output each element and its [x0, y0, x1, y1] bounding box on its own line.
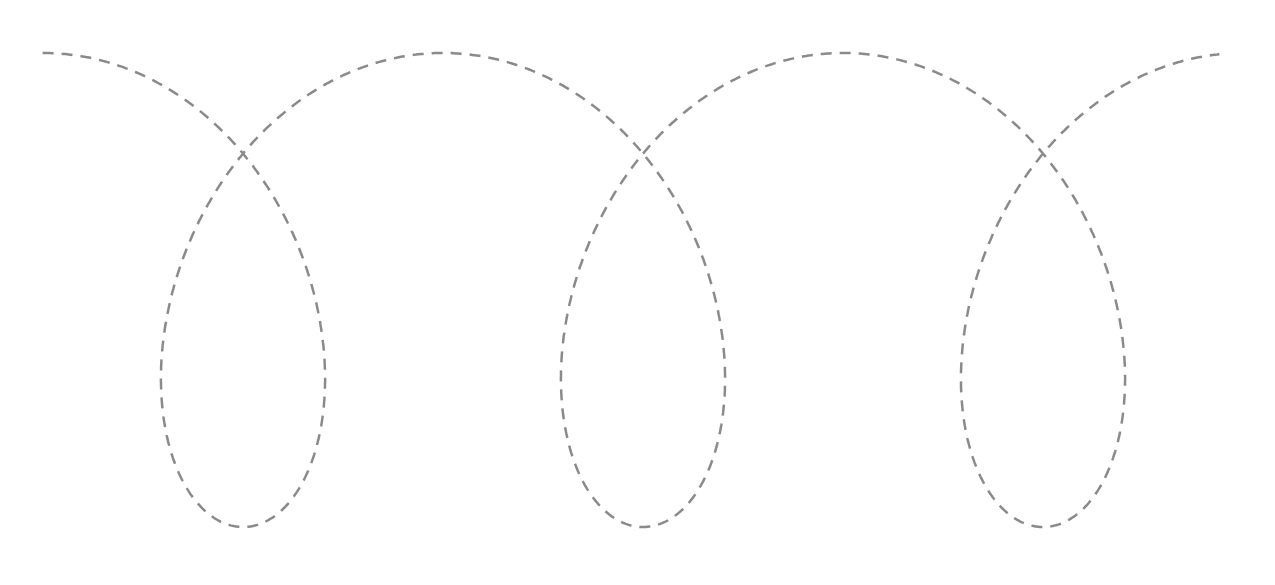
trochoid-diagram: [0, 0, 1275, 585]
dashed-looping-curve: [43, 53, 1220, 527]
